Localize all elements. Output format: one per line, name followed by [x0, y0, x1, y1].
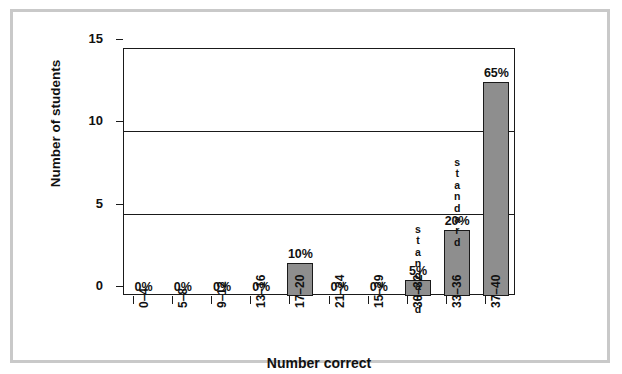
annotation-letter: n: [412, 258, 424, 269]
x-tick-mark: [172, 296, 173, 304]
x-tick-mark: [211, 296, 212, 304]
x-tick-mark: [446, 296, 447, 304]
figure-frame: Number of students 051015 0%0%0%0%10%0%0…: [10, 9, 610, 363]
x-tick-label: 15–29: [373, 275, 385, 308]
x-tick-label: 37–40: [490, 275, 502, 308]
bar: [483, 82, 509, 296]
y-axis-title: Number of students: [48, 54, 63, 194]
y-tick-mark: [116, 121, 123, 122]
x-tick-mark: [407, 296, 408, 304]
chart-page: Number of students 051015 0%0%0%0%10%0%0…: [0, 0, 622, 374]
y-tick-label: 15: [71, 32, 103, 45]
x-tick-label: 13–16: [255, 275, 267, 308]
y-tick-label: 5: [71, 197, 103, 210]
gridline: [124, 131, 514, 132]
x-tick-label: 30–32: [412, 275, 424, 308]
x-tick-mark: [250, 296, 251, 304]
y-tick-label: 0: [71, 279, 103, 292]
standard-annotation: standard: [451, 157, 463, 248]
annotation-letter: n: [451, 191, 463, 202]
x-tick-label: 17–20: [294, 275, 306, 308]
x-tick-label: 5–8: [177, 288, 189, 308]
x-tick-label: 33–36: [451, 275, 463, 308]
x-tick-mark: [368, 296, 369, 304]
plot-area: 0%0%0%0%10%0%0%5%20%65% standardstandard: [123, 48, 515, 295]
x-tick-label: 21–24: [334, 275, 346, 308]
annotation-letter: d: [451, 237, 463, 248]
x-tick-label: 9–12: [216, 281, 228, 308]
x-tick-mark: [329, 296, 330, 304]
x-axis-title: Number correct: [123, 355, 515, 371]
x-tick-label: 0–4: [138, 288, 150, 308]
bar-value-label: 10%: [278, 248, 322, 261]
x-tick-mark: [485, 296, 486, 304]
y-tick-mark: [116, 204, 123, 205]
y-tick-label: 10: [71, 114, 103, 127]
x-tick-mark: [133, 296, 134, 304]
y-tick-mark: [116, 39, 123, 40]
x-tick-mark: [289, 296, 290, 304]
bar-value-label: 65%: [474, 67, 518, 80]
